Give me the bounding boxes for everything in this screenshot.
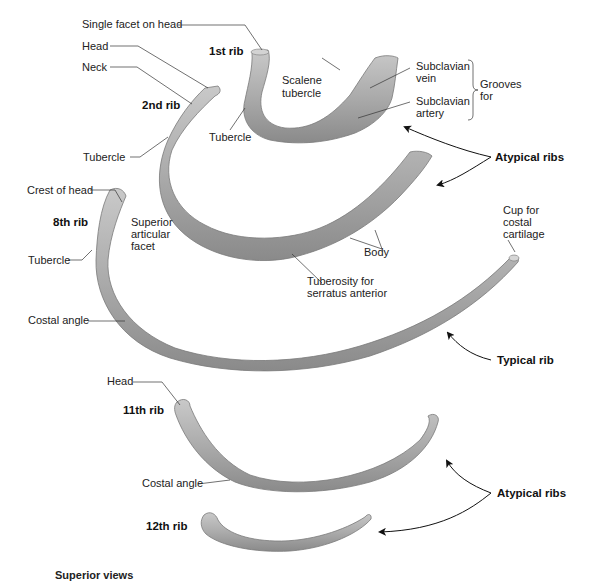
- label-superior-facet-line1: Superior: [131, 216, 173, 229]
- second-rib-shape: [159, 86, 432, 261]
- label-8th-rib-costal-angle: Costal angle: [28, 314, 89, 327]
- label-typical-rib: Typical rib: [497, 354, 554, 367]
- label-tuberosity-line2: serratus anterior: [307, 287, 387, 300]
- label-11th-rib-costal-angle: Costal angle: [142, 477, 203, 490]
- label-superior-facet-line2: articular: [131, 228, 170, 241]
- label-8th-rib: 8th rib: [53, 216, 88, 229]
- label-cup-line2: costal: [503, 216, 532, 229]
- label-scalene-tubercle-line2: tubercle: [282, 87, 321, 100]
- label-subclavian-vein-line2: vein: [416, 72, 436, 85]
- label-11th-rib-head: Head: [107, 375, 133, 388]
- figure-caption: Superior views: [55, 569, 133, 582]
- label-superior-facet-line3: facet: [131, 240, 155, 253]
- label-12th-rib: 12th rib: [146, 520, 188, 533]
- label-cup-line3: cartilage: [503, 228, 545, 241]
- label-11th-rib: 11th rib: [123, 404, 164, 417]
- twelfth-rib-shape: [201, 513, 371, 552]
- label-tuberosity-line1: Tuberosity for: [307, 275, 374, 288]
- label-body: Body: [364, 246, 389, 259]
- label-atypical-ribs-upper: Atypical ribs: [495, 151, 564, 164]
- label-2nd-rib-neck: Neck: [82, 61, 107, 74]
- label-subclavian-artery-line2: artery: [416, 107, 444, 120]
- label-1st-rib: 1st rib: [209, 45, 244, 58]
- label-2nd-rib-head: Head: [82, 40, 108, 53]
- label-2nd-rib-tubercle: Tubercle: [83, 151, 125, 164]
- label-atypical-ribs-lower: Atypical ribs: [497, 487, 566, 500]
- label-grooves-for-line2: for: [480, 90, 493, 103]
- label-crest-of-head: Crest of head: [27, 184, 93, 197]
- label-single-facet-on-head: Single facet on head: [82, 18, 182, 31]
- label-scalene-tubercle-line1: Scalene: [282, 74, 322, 87]
- label-2nd-rib: 2nd rib: [142, 99, 180, 112]
- label-1st-rib-tubercle: Tubercle: [209, 131, 251, 144]
- eleventh-rib-shape: [175, 399, 439, 491]
- label-8th-rib-tubercle: Tubercle: [28, 254, 70, 267]
- label-subclavian-artery-line1: Subclavian: [416, 95, 470, 108]
- label-subclavian-vein-line1: Subclavian: [416, 60, 470, 73]
- label-cup-line1: Cup for: [503, 204, 539, 217]
- label-grooves-for-line1: Grooves: [480, 78, 522, 91]
